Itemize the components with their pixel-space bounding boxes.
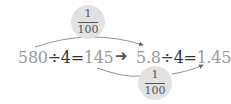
right-divisor: 4 bbox=[174, 48, 184, 67]
bottom-factor-circle: 1 100 bbox=[138, 66, 172, 100]
right-eq: = bbox=[184, 48, 197, 67]
right-result: 1.45 bbox=[197, 48, 231, 67]
left-divisor: 4 bbox=[61, 48, 71, 67]
right-arrow-icon: ➜ bbox=[115, 47, 128, 65]
left-eq: = bbox=[71, 48, 84, 67]
right-equation: 5.8÷4=1.45 bbox=[136, 48, 231, 67]
left-dividend: 580 bbox=[18, 48, 48, 67]
bottom-denominator: 100 bbox=[145, 85, 166, 97]
top-numerator: 1 bbox=[85, 8, 92, 21]
bottom-curve-left bbox=[97, 68, 140, 76]
left-op: ÷ bbox=[48, 48, 61, 67]
right-op: ÷ bbox=[161, 48, 174, 67]
top-factor-circle: 1 100 bbox=[71, 5, 105, 39]
left-equation: 580÷4=145 bbox=[18, 48, 113, 67]
top-denominator: 100 bbox=[78, 24, 99, 36]
bottom-numerator: 1 bbox=[152, 69, 159, 82]
left-result: 145 bbox=[84, 48, 114, 67]
right-dividend: 5.8 bbox=[136, 48, 161, 67]
